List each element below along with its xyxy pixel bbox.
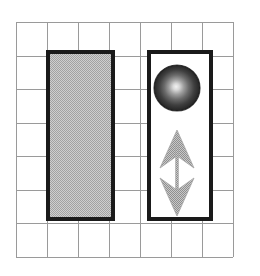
sphere — [154, 65, 200, 111]
figure-canvas — [0, 0, 260, 276]
figure-svg — [0, 0, 260, 276]
left-block-fill — [48, 52, 113, 219]
left-block — [48, 52, 113, 219]
page-background — [0, 0, 260, 276]
